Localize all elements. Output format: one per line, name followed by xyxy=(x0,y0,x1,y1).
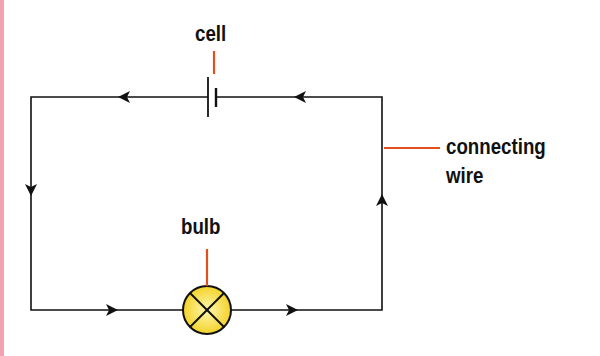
circuit-diagram xyxy=(0,0,600,356)
wire-label-line1: connecting xyxy=(446,134,546,160)
cell-icon xyxy=(208,77,216,117)
bulb-icon xyxy=(183,286,231,334)
cell-label: cell xyxy=(195,21,226,47)
leader-lines xyxy=(207,51,440,286)
bulb-label: bulb xyxy=(181,214,220,240)
wire-label-line2: wire xyxy=(446,163,483,189)
